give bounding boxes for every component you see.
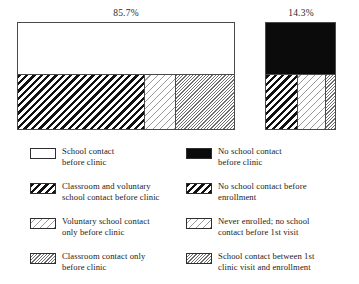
legend-item: Classroom contact only before clinic xyxy=(30,251,190,277)
legend-column-left: School contact before clinic Classroom a… xyxy=(30,146,190,284)
bar-no-school-contact-before-clinic xyxy=(265,22,336,130)
legend-item: Voluntary school contact only before cli… xyxy=(30,216,190,242)
legend-item: No school contact before enrollment xyxy=(186,181,358,207)
legend-label-line2: before clinic xyxy=(62,157,114,168)
bar-label-right: 14.3% xyxy=(265,8,337,18)
legend-label-line2: before clinic xyxy=(62,262,145,273)
legend-label-line1: No school contact xyxy=(218,146,282,156)
legend-swatch-light-diagonal-icon xyxy=(30,218,56,229)
legend-item: School contact between 1st clinic visit … xyxy=(186,251,358,277)
bar-segment-never-enrolled-no-school-contact xyxy=(297,74,325,129)
legend-label-line2: school contact before clinic xyxy=(62,192,160,203)
chart-legend: School contact before clinic Classroom a… xyxy=(0,146,359,284)
legend-swatch-white-icon xyxy=(30,148,56,159)
bar-segment-school-contact-between-visit-and-enrollment xyxy=(325,74,335,129)
bar-segment-school-contact-before-clinic xyxy=(18,23,234,74)
legend-label-line1: Voluntary school contact xyxy=(62,216,150,226)
legend-item: Classroom and voluntary school contact b… xyxy=(30,181,190,207)
legend-label: No school contact before enrollment xyxy=(218,181,307,203)
legend-swatch-solid-black-icon xyxy=(186,148,212,159)
bar-segment-classroom-and-voluntary-school-contact xyxy=(18,74,144,129)
legend-item: School contact before clinic xyxy=(30,146,190,172)
legend-label: Never enrolled; no school contact before… xyxy=(218,216,310,238)
legend-label: No school contact before clinic xyxy=(218,146,282,168)
legend-label-line1: Classroom contact only xyxy=(62,251,145,261)
bar-segment-no-school-contact-before-enrollment xyxy=(266,74,297,129)
legend-label-line1: Never enrolled; no school xyxy=(218,216,310,226)
bar-segment-no-school-contact-before-clinic xyxy=(266,23,335,74)
stacked-bar-chart: 85.7% 14.3% xyxy=(0,0,359,145)
bar-school-contact-before-clinic xyxy=(17,22,235,130)
legend-item: Never enrolled; no school contact before… xyxy=(186,216,358,242)
bar-label-left: 85.7% xyxy=(17,8,235,18)
legend-label-line1: Classroom and voluntary xyxy=(62,181,151,191)
bar-segment-voluntary-school-contact-only xyxy=(144,74,175,129)
legend-label-line1: No school contact before xyxy=(218,181,307,191)
legend-label-line1: School contact xyxy=(62,146,114,156)
legend-label-line2: only before clinic xyxy=(62,227,150,238)
legend-swatch-dense-diagonal-icon xyxy=(30,253,56,264)
legend-label-line2: before clinic xyxy=(218,157,282,168)
bar-segment-classroom-contact-only xyxy=(175,74,234,129)
legend-label: School contact between 1st clinic visit … xyxy=(218,251,314,273)
legend-label-line2: contact before 1st visit xyxy=(218,227,310,238)
legend-swatch-dense-diagonal-icon xyxy=(186,253,212,264)
legend-label: Classroom and voluntary school contact b… xyxy=(62,181,160,203)
legend-label: School contact before clinic xyxy=(62,146,114,168)
legend-label-line1: School contact between 1st xyxy=(218,251,314,261)
legend-label: Voluntary school contact only before cli… xyxy=(62,216,150,238)
legend-label-line2: enrollment xyxy=(218,192,307,203)
legend-column-right: No school contact before clinic No schoo… xyxy=(186,146,358,284)
legend-swatch-light-diagonal-icon xyxy=(186,218,212,229)
legend-item: No school contact before clinic xyxy=(186,146,358,172)
legend-swatch-bold-diagonal-icon xyxy=(186,183,212,194)
legend-label-line2: clinic visit and enrollment xyxy=(218,262,314,273)
legend-label: Classroom contact only before clinic xyxy=(62,251,145,273)
legend-swatch-bold-diagonal-icon xyxy=(30,183,56,194)
